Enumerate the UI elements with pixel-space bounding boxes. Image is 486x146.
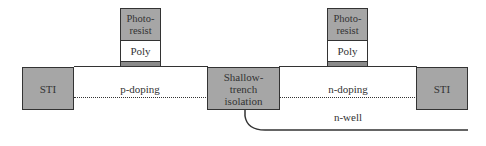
right-photoresist-line-2: resist <box>336 25 358 37</box>
left-poly-gate: Poly <box>120 40 161 62</box>
right-sti-label: STI <box>434 83 451 95</box>
right-poly-gate: Poly <box>327 40 368 62</box>
left-gate-oxide <box>120 61 161 67</box>
n-doping-label: n-doping <box>318 83 378 95</box>
left-sti-label: STI <box>40 83 57 95</box>
n-well-label: n-well <box>318 111 378 123</box>
sti-label-line-3: isolation <box>225 95 263 107</box>
right-gate-oxide <box>327 61 368 67</box>
p-doping-label: p-doping <box>110 83 170 95</box>
right-photoresist: Photo- resist <box>327 8 368 41</box>
left-photoresist-line-2: resist <box>129 25 151 37</box>
shallow-trench-isolation-block: Shallow- trench isolation <box>207 67 280 110</box>
sti-label-line-2: trench <box>230 83 257 95</box>
left-sti-block: STI <box>22 67 74 110</box>
right-sti-block: STI <box>416 67 468 110</box>
right-poly-label: Poly <box>337 45 357 57</box>
sti-label-line-1: Shallow- <box>224 71 264 83</box>
right-photoresist-line-1: Photo- <box>333 13 361 25</box>
left-photoresist: Photo- resist <box>120 8 161 41</box>
left-poly-label: Poly <box>130 45 150 57</box>
left-photoresist-line-1: Photo- <box>126 13 154 25</box>
